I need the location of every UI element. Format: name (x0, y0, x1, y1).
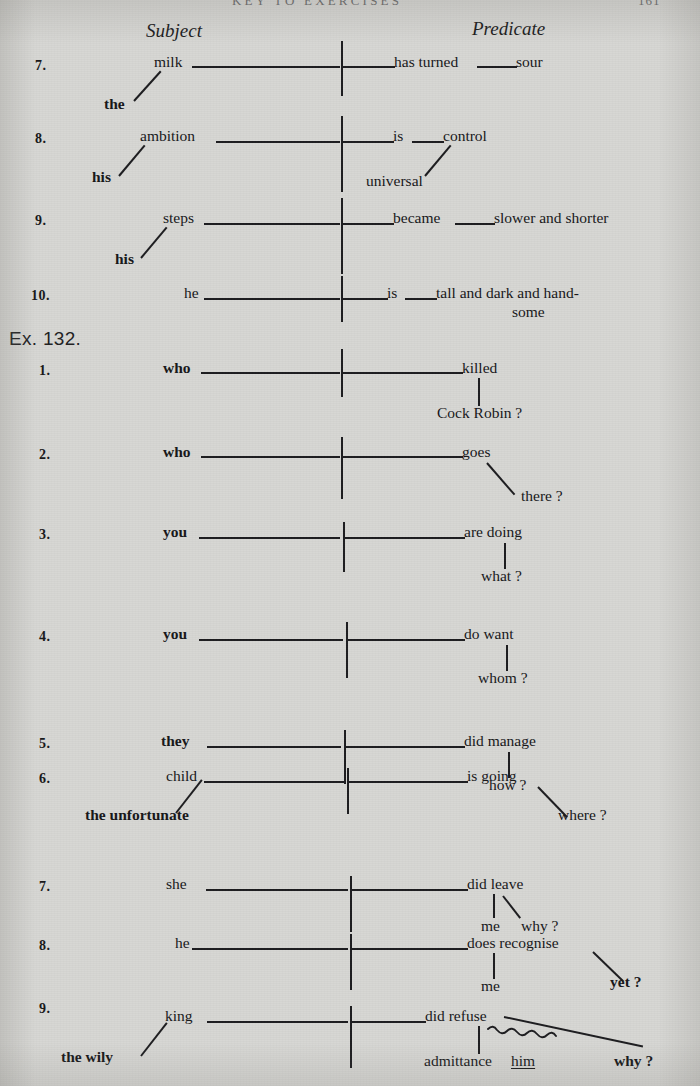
item-number: 7. (35, 58, 47, 74)
baseline-rule (207, 746, 341, 748)
diagram-verb: became (393, 209, 440, 227)
baseline-rule (204, 781, 344, 783)
diagram-subject: they (161, 732, 189, 750)
diagram-subject-modifier: his (115, 250, 134, 268)
baseline-rule (348, 639, 465, 641)
diagram-verb: is going (467, 767, 517, 785)
baseline-rule (207, 1021, 348, 1023)
baseline-rule (352, 1021, 426, 1023)
diagram-subject: she (166, 875, 187, 893)
subject-predicate-divider (346, 622, 348, 678)
diagram-subject: ambition (140, 127, 195, 145)
adverb-slant-rule (486, 462, 515, 495)
subject-predicate-divider (350, 1006, 352, 1068)
diagram-complement: sour (516, 53, 543, 71)
diagram-adverb: there ? (521, 487, 563, 505)
diagram-subject: child (166, 767, 197, 785)
modifier-slant-rule (118, 145, 145, 177)
baseline-rule (346, 746, 465, 748)
baseline-rule (199, 639, 343, 641)
diagram-indirect-object: him (511, 1052, 535, 1070)
complement-rule (405, 298, 437, 300)
object-drop-rule (493, 953, 495, 979)
diagram-subject-modifier: the (104, 95, 125, 113)
modifier-slant-rule (140, 227, 167, 259)
baseline-rule (343, 223, 394, 225)
item-number: 9. (35, 213, 47, 229)
item-number: 6. (39, 771, 51, 787)
diagram-verb: killed (462, 359, 497, 377)
item-number: 3. (39, 527, 51, 543)
diagram-subject: you (163, 625, 187, 643)
diagram-subject-modifier: his (92, 168, 111, 186)
adverb-slant-rule (502, 895, 521, 918)
diagram-verb: is (393, 127, 403, 145)
item-number: 7. (39, 879, 51, 895)
diagram-complement-modifier: universal (366, 172, 423, 190)
subject-predicate-divider (341, 116, 343, 192)
subject-predicate-divider (350, 934, 352, 990)
running-head: KEY TO EXERCISES (232, 0, 402, 9)
complement-rule (477, 66, 517, 68)
baseline-rule (192, 66, 340, 68)
diagram-object: me (481, 977, 500, 995)
diagram-subject: who (163, 443, 191, 461)
subject-predicate-divider (347, 768, 349, 814)
subject-predicate-divider (341, 437, 343, 499)
item-number: 8. (39, 938, 51, 954)
diagram-complement-line2: some (512, 303, 545, 321)
subject-predicate-divider (350, 876, 352, 932)
diagram-complement-line1: tall and dark and hand- (436, 284, 579, 302)
baseline-rule (192, 948, 348, 950)
baseline-rule (204, 298, 340, 300)
subject-predicate-divider (341, 198, 343, 274)
diagram-subject: milk (154, 53, 182, 71)
baseline-rule (206, 889, 348, 891)
diagram-object: whom ? (478, 669, 528, 687)
diagram-subject: he (184, 284, 199, 302)
diagram-subject-modifier: the wily (61, 1048, 113, 1066)
diagram-subject: who (163, 359, 191, 377)
item-number: 2. (39, 447, 51, 463)
complement-rule (455, 223, 495, 225)
diagram-adverb: why ? (614, 1052, 653, 1070)
diagram-object: me (481, 917, 500, 935)
column-heading-subject: Subject (146, 20, 202, 42)
diagram-verb: did refuse (425, 1007, 487, 1025)
baseline-rule (343, 456, 463, 458)
object-drop-rule (478, 1026, 480, 1054)
baseline-rule (343, 141, 394, 143)
diagram-verb: did manage (464, 732, 536, 750)
diagram-verb: did leave (467, 875, 523, 893)
diagram-complement: slower and shorter (494, 209, 609, 227)
book-page: KEY TO EXERCISES 161 Subject Predicate 7… (0, 0, 700, 1086)
item-number: 9. (39, 1001, 51, 1017)
baseline-rule (345, 537, 465, 539)
object-drop-rule (493, 894, 495, 918)
baseline-rule (349, 781, 468, 783)
modifier-slant-rule (424, 145, 451, 177)
diagram-verb: is (387, 284, 397, 302)
baseline-rule (204, 223, 340, 225)
diagram-subject: you (163, 523, 187, 541)
diagram-adverb: yet ? (610, 973, 641, 991)
diagram-subject: king (165, 1007, 193, 1025)
diagram-adverb: where ? (558, 806, 607, 824)
diagram-verb: has turned (394, 53, 458, 71)
modifier-slant-rule (140, 1022, 167, 1056)
diagram-complement: control (443, 127, 487, 145)
baseline-rule (343, 66, 395, 68)
item-number: 1. (39, 363, 51, 379)
item-number: 5. (39, 736, 51, 752)
baseline-rule (352, 889, 468, 891)
modifier-slant-rule (133, 71, 161, 102)
diagram-object: admittance (424, 1052, 492, 1070)
object-drop-rule (506, 645, 508, 671)
baseline-rule (216, 141, 340, 143)
page-folio: 161 (638, 0, 661, 9)
diagram-object: Cock Robin ? (437, 404, 522, 422)
diagram-verb: goes (462, 443, 490, 461)
diagram-object: what ? (481, 567, 522, 585)
diagram-subject-modifier: the unfortunate (85, 806, 189, 824)
diagram-verb: does recognise (467, 934, 559, 952)
